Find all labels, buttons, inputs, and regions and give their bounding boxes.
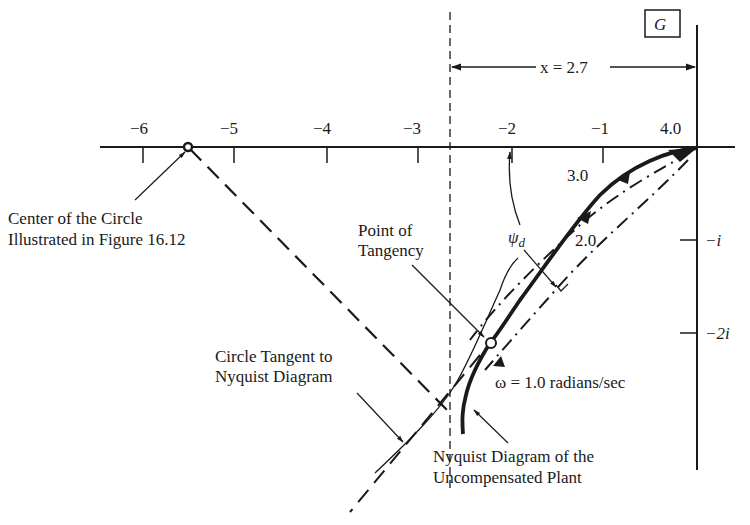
nyquist-figure: −6 −5 −4 −3 −2 −1 4.0 −i −2i G x = 2.7 3… [0,0,750,525]
freq-label-3: 3.0 [567,166,588,185]
x-tick-label: −6 [130,119,148,138]
center-annotation-line1: Center of the Circle [8,209,143,228]
x-tick-label: −5 [220,119,238,138]
y-tick-label: −2i [705,324,730,343]
omega-label: ω = 1.0 radians/sec [495,373,626,392]
plane-label: G [654,15,666,34]
circle-annotation-line2: Nyquist Diagram [215,367,333,386]
nyquist-annotation-line2: Uncompensated Plant [433,468,582,487]
tangency-point-marker [486,338,496,348]
circle-center-marker [184,143,192,151]
imaginary-axis [680,25,697,470]
freq-marker-4 [668,148,697,162]
angle-bracket [556,284,568,291]
tangency-annotation-line2: Tangency [358,241,424,260]
freq-label-4: 4.0 [660,119,681,138]
direction-arrow-1 [493,356,505,367]
x-tick-label: −4 [313,119,332,138]
x-tick-label: −1 [591,119,609,138]
nyquist-annotation-line1: Nyquist Diagram of the [433,447,594,466]
angle-label: ψd [508,228,526,250]
tangency-annotation-line1: Point of [358,221,413,240]
tangency-pointer [412,265,484,337]
circle-pointer [357,393,403,442]
x-tick-label: −2 [498,119,516,138]
x-tick-label: −3 [403,119,421,138]
freq-label-2: 2.0 [575,231,596,250]
angle-arc [509,152,520,225]
dimension-label: x = 2.7 [540,58,588,77]
compensated-curve-2 [485,160,688,370]
y-tick-label: −i [705,231,721,250]
center-annotation-line2: Illustrated in Figure 16.12 [8,230,186,249]
circle-annotation-line1: Circle Tangent to [215,347,332,366]
nyquist-pointer [474,410,508,443]
